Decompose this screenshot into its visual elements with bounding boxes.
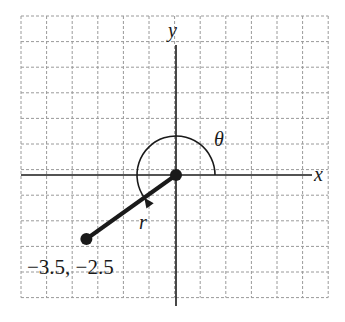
diagram-canvas: x y θ r −3.5, −2.5 [0,0,345,322]
terminal-point [80,233,92,245]
radius-label: r [139,211,147,233]
x-axis-label: x [313,163,323,185]
polar-diagram: x y θ r −3.5, −2.5 [0,0,345,322]
origin-point [170,169,182,181]
y-axis-label: y [166,19,177,42]
point-coordinates-label: −3.5, −2.5 [27,255,114,279]
angle-theta-label: θ [214,128,224,150]
radius-segment [86,175,176,239]
